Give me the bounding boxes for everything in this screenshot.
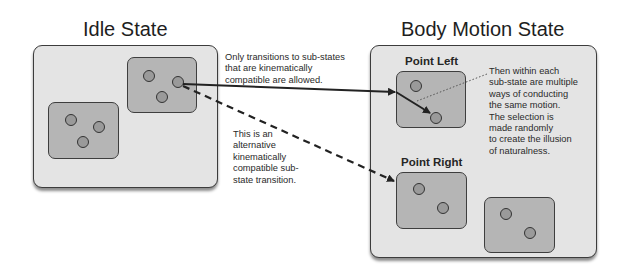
point-right-dot	[413, 183, 425, 195]
idle-substate-top-dot	[143, 70, 155, 82]
point-left-label: Point Left	[405, 55, 458, 67]
allowed-transitions-note: Only transitions to sub-states that are …	[225, 52, 345, 86]
alternative-transition-note: This is an alternative kinematically com…	[233, 129, 299, 186]
idle-substate-bottom	[48, 102, 119, 159]
idle-substate-bottom-dot	[93, 121, 105, 133]
idle-state-title: Idle State	[83, 18, 168, 41]
idle-substate-top	[127, 57, 197, 113]
idle-substate-top-dot	[156, 91, 168, 103]
point-right-dot	[437, 202, 449, 214]
unlabeled-substate	[484, 197, 555, 253]
idle-substate-bottom-dot	[77, 136, 89, 148]
unlabeled-substate-dot	[500, 208, 512, 220]
idle-substate-bottom-dot	[65, 114, 77, 126]
point-left-dot	[430, 112, 442, 124]
point-right-label: Point Right	[401, 156, 462, 168]
body-motion-state-title: Body Motion State	[401, 18, 564, 41]
unlabeled-substate-dot	[524, 227, 536, 239]
idle-substate-top-dot	[172, 76, 184, 88]
point-right-substate	[396, 172, 467, 229]
within-substate-note: Then within each sub-state are multiple …	[489, 66, 578, 157]
point-left-dot	[410, 80, 422, 92]
